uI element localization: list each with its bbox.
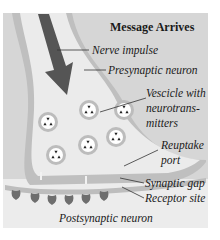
label-vescicle-line3: mitters	[146, 117, 178, 129]
label-reuptake-line2: port	[160, 154, 181, 167]
synapse-diagram: Message Arrives Nerve impulse Presynapti…	[0, 0, 220, 240]
label-reuptake-line1: Reuptake	[160, 139, 204, 152]
vesicle	[106, 127, 126, 147]
vesicle	[38, 112, 58, 132]
label-vescicle-line2: neurotrans-	[146, 102, 200, 114]
vesicle	[78, 135, 98, 155]
reuptake-port	[40, 172, 42, 180]
reuptake-port	[85, 176, 87, 184]
label-vescicle-line1: Vescicle with	[146, 87, 206, 99]
label-postsynaptic-neuron: Postsynaptic neuron	[58, 212, 153, 225]
label-synaptic-gap: Synaptic gap	[145, 177, 205, 190]
vesicle	[114, 100, 134, 120]
diagram-title: Message Arrives	[110, 20, 195, 34]
vesicle	[46, 145, 66, 165]
label-receptor-site: Receptor site	[144, 192, 205, 205]
label-presynaptic-neuron: Presynaptic neuron	[107, 64, 198, 77]
vesicle	[79, 100, 99, 120]
label-nerve-impulse: Nerve impulse	[91, 44, 158, 57]
